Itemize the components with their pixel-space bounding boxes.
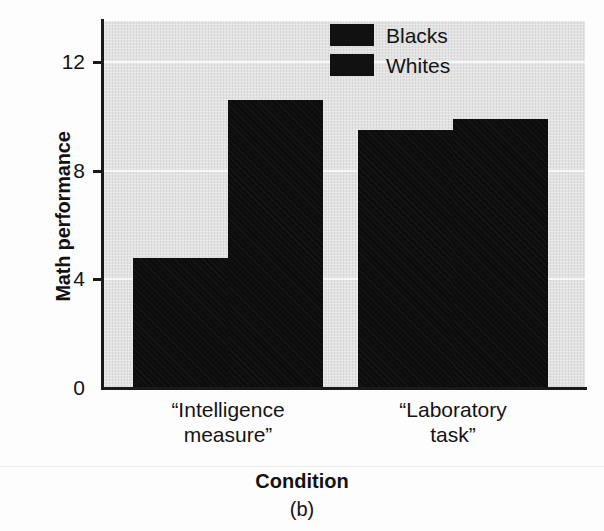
- legend: Blacks Whites: [330, 24, 450, 76]
- bar-intelligence-whites: [228, 100, 323, 388]
- y-tick-label-12: 12: [30, 51, 85, 72]
- bar-laboratory-blacks: [358, 130, 453, 388]
- x-tick-label-intelligence-measure: “Intelligence measure”: [103, 398, 353, 448]
- figure-panel-b: Math performance 0 4 8 12 Blacks Whites …: [0, 0, 604, 531]
- y-axis-line: [101, 19, 104, 390]
- x-axis-title: Condition: [0, 470, 604, 493]
- bar-laboratory-whites: [453, 119, 548, 388]
- x-tick-label-laboratory-task: “Laboratory task”: [328, 398, 578, 448]
- plot-area: [103, 21, 585, 388]
- legend-item-blacks: Blacks: [330, 24, 450, 46]
- legend-swatch-whites: [330, 54, 374, 76]
- x-axis-line: [101, 387, 587, 390]
- y-axis-title: Math performance: [52, 62, 75, 372]
- legend-label-blacks: Blacks: [386, 25, 448, 46]
- bar-intelligence-blacks: [133, 258, 228, 388]
- y-tick-label-4: 4: [30, 268, 85, 289]
- y-tick-label-8: 8: [30, 160, 85, 181]
- y-tick-label-0: 0: [30, 377, 85, 398]
- divider: [0, 466, 604, 467]
- legend-swatch-blacks: [330, 24, 374, 46]
- legend-label-whites: Whites: [386, 55, 450, 76]
- figure-caption: (b): [0, 498, 604, 521]
- legend-item-whites: Whites: [330, 54, 450, 76]
